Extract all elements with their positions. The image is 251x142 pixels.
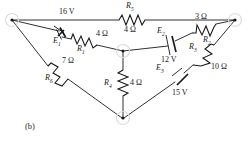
label-R6-value: 7 Ω: [62, 57, 74, 65]
label-R1-name: R1: [77, 45, 85, 55]
label-R1-value: 4 Ω: [96, 30, 108, 38]
node-right: [233, 18, 236, 21]
label-R3-name: R3: [189, 43, 197, 53]
node-bottom: [121, 116, 124, 119]
node-left: [10, 18, 13, 21]
label-R4-name: R4: [104, 79, 112, 89]
source-E2-symbol: [166, 35, 176, 55]
node-center: [122, 50, 125, 53]
label-R3-value: 10 Ω: [211, 63, 227, 71]
wire-r3-to-e3: [184, 65, 193, 73]
figure-caption: (b): [25, 121, 35, 131]
wire-e2-to-r2: [175, 33, 192, 41]
label-E1-name: E1: [53, 37, 61, 47]
circuit-figure: 16 V E1 R1 4 Ω R5 4 Ω E2 12 V 3 Ω R2 R3 …: [0, 0, 251, 142]
wire-e3-to-bottom: [124, 82, 175, 118]
label-R2-value: 3 Ω: [195, 13, 207, 21]
label-R4-value: 4 Ω: [130, 79, 142, 87]
resistor-R4-symbol: [118, 70, 128, 96]
wire-r6-to-bottom: [68, 79, 122, 118]
label-E3-value: 15 V: [172, 89, 188, 97]
circuit-schematic-svg: [0, 0, 251, 142]
label-R5-value: 4 Ω: [124, 26, 136, 34]
label-E3-name: E3: [156, 64, 164, 74]
resistor-R5-symbol: [119, 15, 145, 25]
label-E2-value: 12 V: [161, 56, 177, 64]
label-R5-name: R5: [126, 2, 134, 12]
label-E2-name: E2: [157, 27, 165, 37]
label-R2-name: R2: [203, 36, 211, 46]
label-R6-name: R6: [45, 74, 53, 84]
wire-e1-to-r1: [62, 37, 71, 39]
label-E1-value: 16 V: [59, 8, 75, 16]
